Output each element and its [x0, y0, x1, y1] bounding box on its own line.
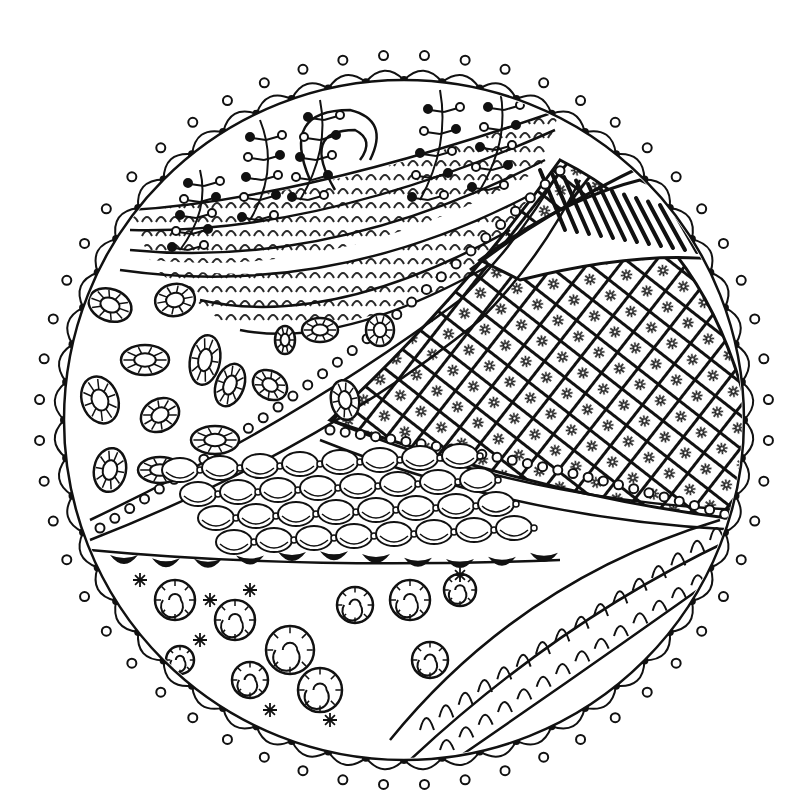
zentangle-artwork [0, 0, 788, 806]
mandala-drawing [0, 0, 788, 806]
